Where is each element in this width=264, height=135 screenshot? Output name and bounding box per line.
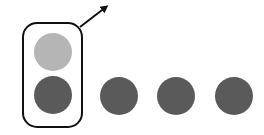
diagram-canvas xyxy=(0,0,264,135)
dark-circle-3 xyxy=(215,77,253,115)
dark-circle-1 xyxy=(100,77,138,115)
dark-circle-2 xyxy=(157,77,195,115)
dark-circle-grouped xyxy=(34,76,72,114)
arrow-icon xyxy=(80,7,106,27)
light-circle xyxy=(34,33,72,71)
